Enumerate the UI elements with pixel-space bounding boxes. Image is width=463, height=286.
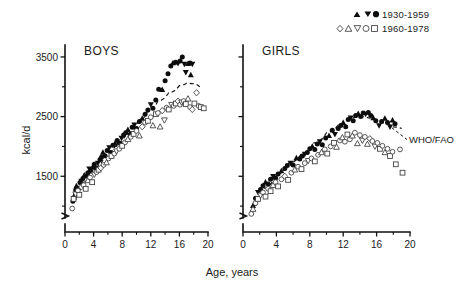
data-points-boys [70,54,206,211]
data-point-diamond [194,90,200,96]
data-point-triangle-up [326,133,332,139]
data-point-circle [148,115,153,120]
panel-girls: GIRLS 048121620 WHO/FAO [239,44,454,250]
y-tick-label: 1500 [36,171,59,182]
x-tick-label: 4 [274,239,280,250]
data-point-triangle-down [162,118,168,123]
data-point-square [77,192,82,197]
x-tick-label: 0 [62,239,68,250]
data-point-circle [70,206,75,211]
data-points-girls [249,110,405,216]
triangle-down-icon [354,26,361,32]
data-point-circle [351,118,356,123]
triangle-up-icon [345,25,352,31]
data-point-circle [385,146,390,151]
data-point-square [166,107,171,112]
legend-label-1960-1978: 1960-1978 [382,23,429,34]
x-tick-label: 20 [202,239,214,250]
axes-girls [239,45,411,237]
data-point-square [268,189,273,194]
y-tick-labels-boys: 150025003500 [36,52,59,182]
data-point-circle [380,143,385,148]
data-point-circle [134,129,139,134]
data-point-square [286,178,291,183]
data-point-circle [163,78,168,83]
legend-markers-filled [354,11,380,17]
data-point-circle [353,130,358,135]
data-point-square [83,186,88,191]
panel-boys: BOYS 150025003500 048121620 [36,44,214,250]
data-point-square [332,141,337,146]
data-point-circle [266,182,271,187]
square-icon [372,26,378,32]
data-point-circle [375,141,380,146]
circle-icon [373,11,379,17]
figure-root: 1930-1959 1960-1978 kcal/d Age, years BO… [0,0,463,286]
data-point-square [90,180,95,185]
x-tick-label: 16 [371,239,383,250]
panel-title-girls: GIRLS [262,44,300,58]
y-tick-label: 2500 [36,111,59,122]
data-point-triangle-down [183,70,189,76]
data-point-circle [150,106,155,111]
data-point-circle [343,124,348,129]
legend-entry-1930-1959: 1930-1959 [354,9,430,20]
data-point-square [276,184,281,189]
legend-entry-1960-1978: 1960-1978 [337,23,429,34]
circle-icon [363,26,369,32]
data-point-square [299,167,304,172]
data-point-circle [285,163,290,168]
x-tick-labels-girls: 048121620 [240,239,416,250]
who-fao-reference-line-girls [254,117,402,207]
who-fao-label: WHO/FAO [409,134,454,145]
x-tick-label: 4 [91,239,97,250]
triangle-up-icon [354,12,361,18]
y-tick-label: 3500 [36,52,59,63]
data-point-triangle-down [376,123,382,129]
data-point-triangle-up [355,141,361,146]
data-point-square [263,194,268,199]
x-tick-label: 20 [404,239,416,250]
data-point-triangle-up [340,120,346,126]
data-point-circle [166,71,171,76]
data-point-triangle-up [150,123,156,128]
series-1960-1978 [249,130,405,216]
data-point-circle [88,175,93,180]
data-point-triangle-up [157,124,163,129]
data-point-circle [143,112,148,117]
series-1960-1978 [70,90,206,211]
data-point-circle [343,139,348,144]
data-point-circle [385,120,390,125]
diamond-icon [337,25,343,32]
data-point-circle [370,139,375,144]
data-point-triangle-down [332,132,338,138]
x-tick-label: 12 [338,239,350,250]
data-point-square [325,151,330,156]
x-axis-title: Age, years [206,266,259,278]
data-point-triangle-up [188,72,194,78]
data-point-circle [398,147,403,152]
data-point-circle [390,149,395,154]
legend: 1930-1959 1960-1978 [337,9,429,34]
x-tick-labels-boys: 048121620 [62,239,214,250]
data-point-circle [153,97,158,102]
data-point-circle [373,118,378,123]
data-point-square [393,162,398,167]
data-point-circle [180,54,185,59]
chart-canvas: 1930-1959 1960-1978 kcal/d Age, years BO… [0,0,463,286]
panel-title-boys: BOYS [84,44,119,58]
data-point-circle [312,147,317,152]
data-point-square [312,159,317,164]
data-point-circle [330,128,335,133]
data-point-triangle-up [382,115,388,121]
data-point-circle [249,212,254,217]
triangle-down-icon [365,12,372,18]
legend-label-1930-1959: 1930-1959 [382,9,429,20]
y-axis-title: kcal/d [20,126,32,155]
data-point-circle [358,133,363,138]
data-point-circle [393,121,398,126]
data-point-circle [145,108,150,113]
data-point-square [183,102,188,107]
data-point-square [345,132,350,137]
x-tick-label: 16 [174,239,186,250]
